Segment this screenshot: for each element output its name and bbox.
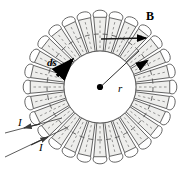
- winding-loop: [170, 80, 177, 94]
- current-arrow-in-icon: [31, 137, 48, 145]
- current-arrow-out-icon: [24, 124, 40, 128]
- toroid-diagram-svg: [0, 0, 195, 172]
- winding-loop: [23, 80, 30, 94]
- winding-loop: [93, 10, 107, 17]
- toroid-figure: B ds r I I: [0, 0, 195, 172]
- field-arrow-icon: [101, 38, 146, 39]
- winding-loop: [93, 157, 107, 164]
